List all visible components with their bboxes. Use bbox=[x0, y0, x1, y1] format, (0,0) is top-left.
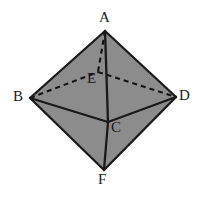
vertex-label-E: E bbox=[87, 71, 96, 86]
octahedron-figure: A B C D E F bbox=[0, 0, 201, 198]
vertex-label-A: A bbox=[99, 10, 110, 25]
vertex-label-B: B bbox=[13, 89, 23, 104]
octahedron-svg bbox=[0, 0, 201, 198]
octahedron-faces bbox=[30, 31, 176, 170]
vertex-label-D: D bbox=[179, 88, 190, 103]
vertex-label-C: C bbox=[111, 120, 121, 135]
vertex-label-F: F bbox=[98, 172, 106, 187]
